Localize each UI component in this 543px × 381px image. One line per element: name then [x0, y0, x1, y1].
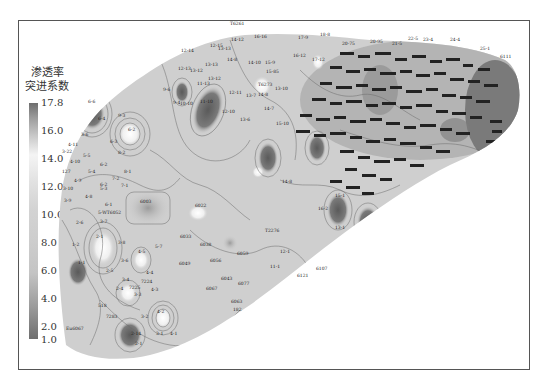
- well-label: 1-2: [72, 242, 79, 247]
- well-label: 5-WT6052: [98, 210, 121, 215]
- well-label: 4-1: [170, 331, 177, 336]
- well-label: 24-4: [450, 37, 460, 42]
- well-label: 14-8: [227, 57, 237, 62]
- well-label: 15-10: [276, 121, 289, 126]
- well-label: 25-1: [480, 46, 490, 51]
- well-label: 6-3: [110, 139, 117, 144]
- well-label: 6038: [200, 242, 212, 247]
- well-label: 2-1: [135, 341, 142, 346]
- well-label: 6063: [231, 299, 243, 304]
- well-label: 6077: [238, 281, 250, 286]
- well-label: 17-9: [298, 35, 308, 40]
- well-label: 11-1: [270, 264, 280, 269]
- well-label: 11-10: [200, 99, 213, 104]
- well-label: 6067: [206, 286, 218, 291]
- well-label: 3-2: [141, 314, 148, 319]
- well-label: 6121: [297, 273, 309, 278]
- well-label: 20-75: [342, 41, 355, 46]
- well-label: 182: [233, 307, 242, 312]
- well-label: 14-7: [264, 106, 274, 111]
- well-label: 18-8: [320, 32, 330, 37]
- well-label: 3-10: [63, 186, 73, 191]
- well-label: 14-8: [282, 179, 292, 184]
- well-label: 4-4: [146, 270, 153, 275]
- well-label: 5-7: [155, 244, 162, 249]
- well-label: 6-4: [98, 116, 105, 121]
- well-label: 12-10: [222, 109, 235, 114]
- well-label: 8-2: [118, 150, 125, 155]
- well-label: 3-9: [64, 198, 71, 203]
- well-label: 1-1: [78, 260, 85, 265]
- well-label: 13-1: [335, 225, 345, 230]
- well-label: 4-8: [85, 194, 92, 199]
- well-label: 127: [62, 169, 71, 174]
- well-label: 9-3: [118, 113, 125, 118]
- well-label: 4-3: [151, 287, 158, 292]
- well-label: 6-6: [88, 99, 95, 104]
- well-label: 7-1: [121, 183, 128, 188]
- well-label: 4-10: [70, 159, 80, 164]
- well-label: 5-4: [88, 169, 95, 174]
- well-label: 3-22: [62, 149, 72, 154]
- well-label: 3-3: [134, 292, 141, 297]
- well-label: 17-12: [312, 57, 325, 62]
- well-label: 15-1: [335, 193, 345, 198]
- well-label: 6049: [179, 261, 191, 266]
- well-label: 13-7: [246, 93, 256, 98]
- well-label: 10-10: [180, 101, 193, 106]
- well-label: 12-1: [280, 249, 290, 254]
- well-label: 3-4: [122, 277, 129, 282]
- well-label: 3-7: [100, 219, 107, 224]
- well-label: 3-6: [81, 132, 88, 137]
- well-label: 7225: [129, 285, 141, 290]
- well-label: 23-4: [423, 37, 433, 42]
- well-label: 13-10: [275, 86, 288, 91]
- well-label: 4-5: [138, 249, 145, 254]
- well-label: 6111: [500, 54, 512, 59]
- well-label: 13-12: [190, 68, 203, 73]
- well-label: 7224: [141, 279, 153, 284]
- well-label: 4-11: [68, 142, 78, 147]
- well-label: 3-1: [156, 331, 163, 336]
- contour-map: T626114-1216-1617-918-812-1512-1413-1316…: [0, 0, 543, 381]
- well-label: 6056: [210, 258, 222, 263]
- well-label: T6261: [230, 21, 245, 26]
- well-label: 20-95: [370, 39, 383, 44]
- well-label: 14-10: [248, 60, 261, 65]
- well-label: 2-5: [106, 268, 113, 273]
- well-label: 8-1: [124, 169, 131, 174]
- well-label: 12-11: [229, 90, 242, 95]
- well-label: 11-13: [197, 81, 210, 86]
- well-label: 15-9: [265, 60, 275, 65]
- well-label: 16-12: [293, 53, 306, 58]
- well-label: 6003: [140, 199, 152, 204]
- well-label: 6033: [180, 234, 192, 239]
- well-label: 21-5: [392, 41, 402, 46]
- well-label: 12-14: [181, 48, 194, 53]
- well-label: 12-13: [178, 66, 191, 71]
- well-label: 518: [98, 303, 107, 308]
- well-label: Eu6067: [66, 326, 84, 331]
- well-label: 16-2: [318, 206, 328, 211]
- well-label: 6022: [195, 203, 207, 208]
- well-label: 2-1: [96, 234, 103, 239]
- well-label: T2276: [265, 228, 280, 233]
- well-label: 6059: [237, 251, 249, 256]
- well-label: 9-6: [163, 87, 170, 92]
- well-label: 6-2: [100, 162, 107, 167]
- well-label: 3-6: [121, 258, 128, 263]
- well-label: 16-16: [254, 34, 267, 39]
- well-label: T6273: [258, 82, 273, 87]
- well-label: 4-2: [157, 309, 164, 314]
- well-label: 6-1: [105, 202, 112, 207]
- well-label: 22-5: [408, 36, 418, 41]
- well-label: 7283: [106, 314, 118, 319]
- well-label: 6-2: [100, 182, 107, 187]
- well-label: 3-8: [118, 240, 125, 245]
- well-label: 14-12: [231, 37, 244, 42]
- well-label: 13-13: [218, 46, 231, 51]
- well-label: 2-6: [76, 220, 83, 225]
- well-label: 2-14: [131, 331, 141, 336]
- well-label: 5-5: [83, 153, 90, 158]
- well-label: 4-9: [74, 178, 81, 183]
